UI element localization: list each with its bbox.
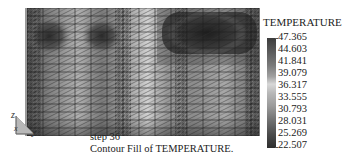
- axis-triad: z x y: [12, 112, 42, 138]
- legend-tick-label: 33.555: [278, 91, 307, 102]
- legend-tick-label: 41.841: [278, 55, 307, 66]
- step-label: step 36: [90, 131, 120, 142]
- plot-description: Contour Fill of TEMPERATURE.: [90, 143, 233, 154]
- legend-tick-label: 25.269: [278, 127, 307, 138]
- axis-label-z: z: [11, 109, 15, 120]
- viewport: TEMPERATURE 47.365 44.603 41.841 39.079 …: [0, 0, 357, 162]
- legend-tick-label: 44.603: [278, 43, 307, 54]
- legend-tick-label: 47.365: [278, 31, 307, 42]
- legend-tick-label: 22.507: [278, 139, 307, 150]
- contour-plot[interactable]: [25, 8, 260, 136]
- legend-title: TEMPERATURE: [263, 16, 342, 28]
- axis-label-y: y: [32, 126, 36, 137]
- legend-colorbar: [267, 38, 276, 148]
- legend-tick-label: 36.317: [278, 79, 307, 90]
- axis-label-x: x: [14, 124, 18, 133]
- legend-tick-label: 39.079: [278, 67, 307, 78]
- mesh-contour-graphic: [27, 8, 259, 136]
- legend-tick-label: 28.031: [278, 115, 307, 126]
- legend-tick-label: 30.793: [278, 103, 307, 114]
